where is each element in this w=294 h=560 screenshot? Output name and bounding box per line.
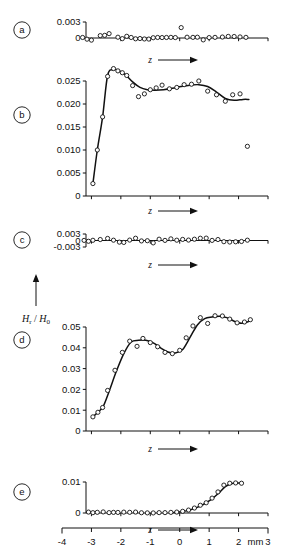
panel-letter-b: b <box>19 109 24 120</box>
data-point <box>133 236 137 240</box>
data-point <box>173 35 177 39</box>
y-axis-label: Hr / H0 <box>21 313 51 326</box>
data-point <box>163 350 167 354</box>
data-point <box>125 34 129 38</box>
x-axis-strip-label-2: -2 <box>117 536 125 547</box>
data-point <box>145 239 149 243</box>
data-point <box>222 483 226 487</box>
z-arrow-head-b <box>190 208 198 214</box>
data-point <box>181 237 185 241</box>
y-tick-label-d-3: 0.03 <box>62 363 81 374</box>
data-point <box>232 34 236 38</box>
data-point <box>234 240 238 244</box>
data-point <box>113 368 117 372</box>
x-axis-strip-label-7: 3 <box>265 536 270 547</box>
data-point <box>226 34 230 38</box>
data-point <box>131 84 135 88</box>
x-axis-strip-label-5: 1 <box>206 536 211 547</box>
panel-letter-a: a <box>19 24 25 35</box>
data-point <box>98 34 102 38</box>
data-point <box>95 148 99 152</box>
data-point <box>231 93 235 97</box>
data-point <box>98 237 102 241</box>
data-point <box>167 87 171 91</box>
data-point <box>148 341 152 345</box>
data-point <box>111 66 115 70</box>
data-point <box>198 236 202 240</box>
data-point <box>91 181 95 185</box>
data-point <box>239 481 243 485</box>
z-arrow-head-a <box>190 57 198 63</box>
data-point <box>145 511 149 515</box>
data-point <box>204 236 208 240</box>
data-point <box>154 86 158 90</box>
y-axis-label-block: Hr / H0 <box>21 274 51 326</box>
data-point <box>175 85 179 89</box>
data-point <box>228 240 232 244</box>
y-tick-label-b-0: 0 <box>75 190 80 201</box>
data-point <box>220 314 224 318</box>
data-point <box>170 352 174 356</box>
panel-d: d00.010.020.030.040.05z <box>14 314 268 454</box>
data-point <box>210 238 214 242</box>
data-point <box>238 92 242 96</box>
data-point <box>81 35 85 39</box>
z-arrow-head-d <box>190 446 198 452</box>
y-arrow-head <box>33 274 39 282</box>
data-point <box>242 320 246 324</box>
data-point <box>117 240 121 244</box>
data-point <box>175 238 179 242</box>
data-point <box>214 93 218 97</box>
y-tick-label-b-4: 0.020 <box>57 98 81 109</box>
y-tick-label-c-2: 0.003 <box>57 228 81 239</box>
figure-container: a00.003zb00.0050.0100.0150.0200.025zc-0.… <box>0 0 294 560</box>
data-point <box>195 35 199 39</box>
data-point <box>238 35 242 39</box>
data-point <box>148 88 152 92</box>
data-point <box>220 35 224 39</box>
data-point <box>147 37 151 41</box>
data-point <box>116 69 120 73</box>
data-point <box>164 35 168 39</box>
data-point <box>228 317 232 321</box>
data-point <box>189 82 193 86</box>
data-point <box>163 238 167 242</box>
data-point <box>116 510 120 514</box>
data-point <box>106 236 110 240</box>
y-tick-label-d-2: 0.02 <box>62 384 81 395</box>
data-point <box>185 35 189 39</box>
data-point <box>160 35 164 39</box>
data-point <box>91 511 95 515</box>
data-point <box>198 316 202 320</box>
data-point <box>186 238 190 242</box>
data-point <box>239 239 243 243</box>
panel-a: a00.003z <box>14 16 268 65</box>
data-point <box>248 318 252 322</box>
data-point <box>82 238 86 242</box>
data-point <box>136 95 140 99</box>
fit-curve-b <box>93 69 249 183</box>
data-point <box>160 83 164 87</box>
data-point <box>197 79 201 83</box>
data-point <box>122 510 126 514</box>
panel-letter-d: d <box>19 334 24 345</box>
data-point <box>234 481 238 485</box>
data-point <box>101 510 105 514</box>
data-point <box>151 36 155 40</box>
data-point <box>89 38 93 42</box>
data-point <box>216 490 220 494</box>
data-point <box>207 35 211 39</box>
data-point <box>169 510 173 514</box>
panel-e: e00.01z <box>14 476 268 535</box>
z-arrow-head-c <box>190 262 198 268</box>
x-axis-strip-label-0: -4 <box>58 536 66 547</box>
x-axis-strip-label-3: -1 <box>146 536 154 547</box>
data-point <box>182 83 186 87</box>
data-point <box>101 115 105 119</box>
data-point <box>107 32 111 36</box>
data-point <box>184 336 188 340</box>
data-point <box>228 481 232 485</box>
data-point <box>133 37 137 41</box>
data-point <box>163 511 167 515</box>
data-point <box>210 496 214 500</box>
